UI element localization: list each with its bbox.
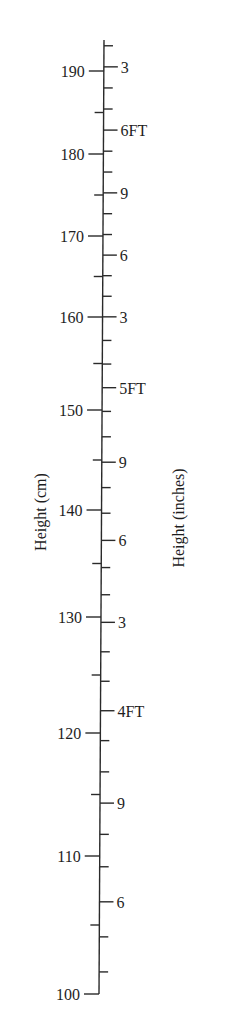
inch-ticks: 694FT3695FT3696FT3 [99, 46, 147, 972]
inch-tick-label: 3 [121, 59, 129, 76]
cm-tick-label: 110 [57, 848, 80, 865]
cm-tick-label: 150 [59, 402, 83, 419]
inch-tick-label: 6 [116, 894, 124, 911]
cm-tick-label: 180 [60, 146, 84, 163]
left-axis-title: Height (cm) [32, 473, 50, 551]
axis-line [99, 40, 104, 994]
cm-tick-label: 160 [60, 309, 84, 326]
cm-tick-label: 130 [58, 609, 82, 626]
inch-tick-label: 4FT [117, 703, 144, 720]
vertical-axis [99, 40, 104, 994]
cm-ticks: 100110120130140150160170180190 [56, 63, 104, 1003]
cm-tick-label: 100 [56, 986, 80, 1003]
inch-tick-label: 9 [119, 454, 127, 471]
right-axis-title: Height (inches) [170, 468, 188, 567]
cm-tick-label: 170 [60, 228, 84, 245]
cm-tick-label: 140 [59, 502, 83, 519]
height-scale-chart: 100110120130140150160170180190 694FT3695… [0, 0, 225, 1027]
inch-tick-label: 6FT [121, 122, 148, 139]
inch-tick-label: 9 [117, 795, 125, 812]
cm-tick-label: 190 [61, 63, 85, 80]
inch-tick-label: 5FT [119, 380, 146, 397]
inch-tick-label: 9 [120, 185, 128, 202]
inch-tick-label: 3 [118, 614, 126, 631]
inch-tick-label: 6 [118, 532, 126, 549]
inch-tick-label: 6 [120, 247, 128, 264]
cm-tick-label: 120 [57, 725, 81, 742]
inch-tick-label: 3 [120, 309, 128, 326]
